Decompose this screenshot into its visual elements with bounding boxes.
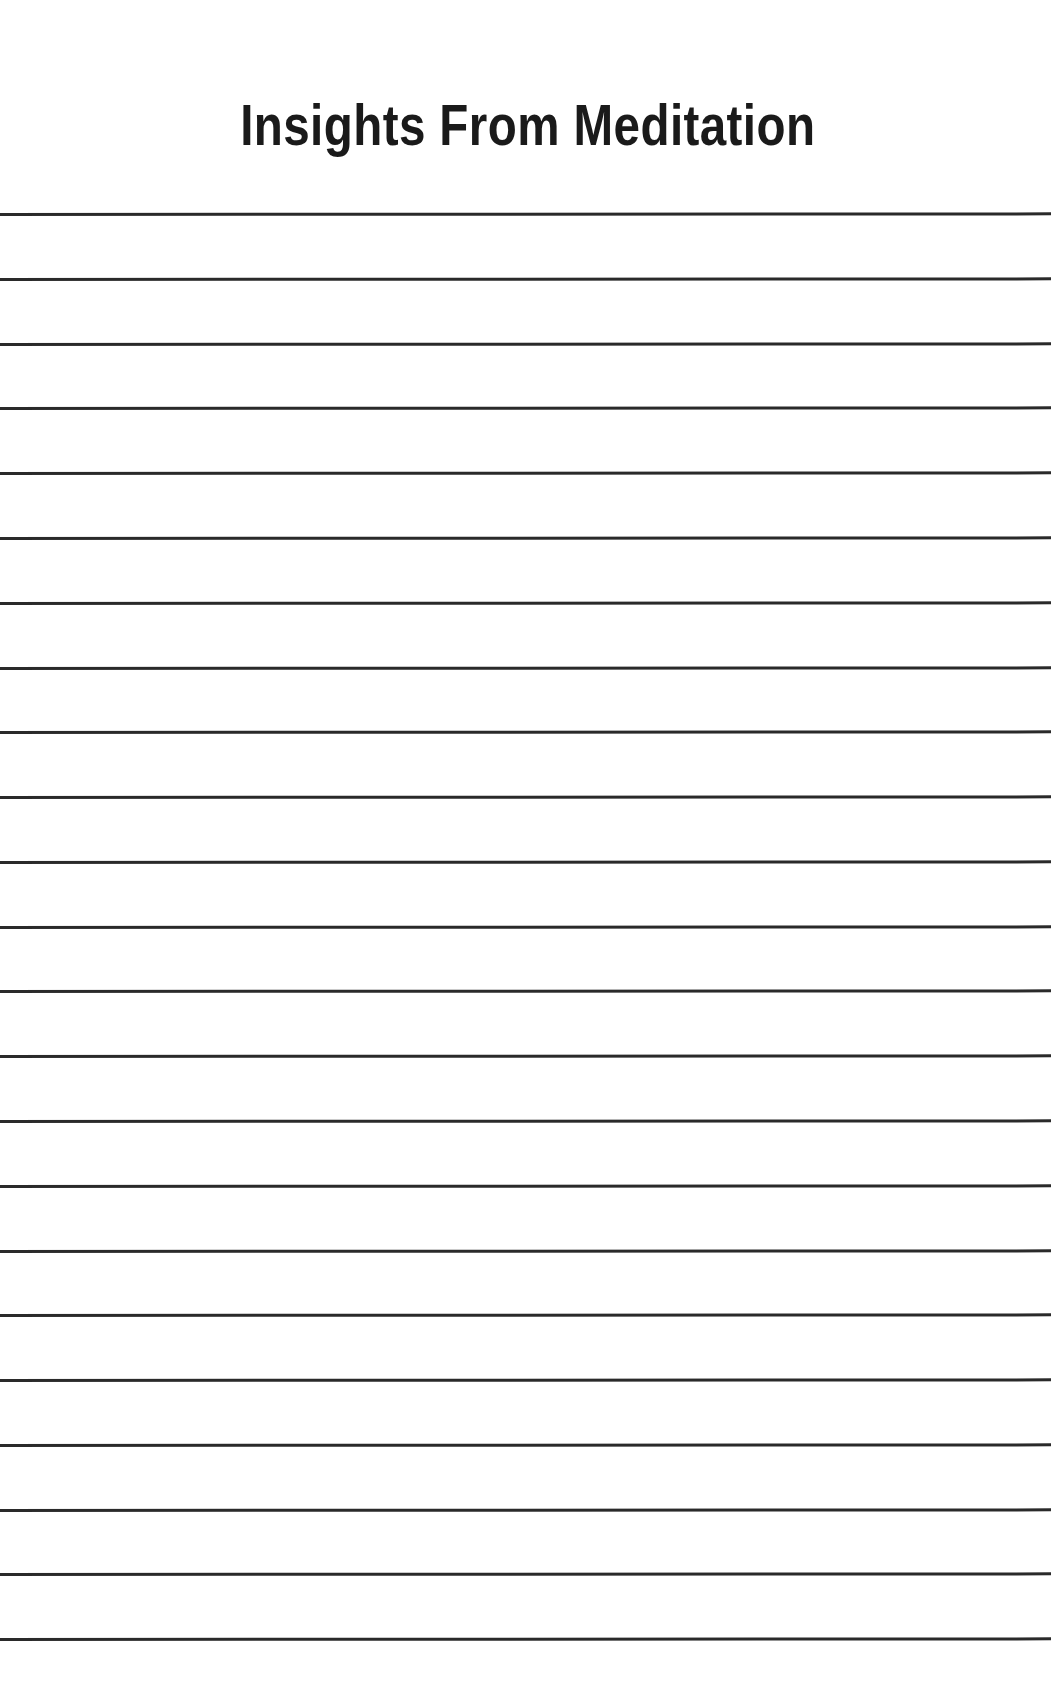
writing-line[interactable] <box>0 1184 1051 1188</box>
writing-line[interactable] <box>0 277 1051 281</box>
writing-line[interactable] <box>0 406 1051 410</box>
writing-line[interactable] <box>0 1572 1051 1576</box>
journal-page: Insights From Meditation <box>0 0 1055 1698</box>
writing-line[interactable] <box>0 536 1051 540</box>
writing-line[interactable] <box>0 212 1051 216</box>
writing-line[interactable] <box>0 1313 1051 1317</box>
writing-line[interactable] <box>0 1443 1051 1447</box>
ruled-lines-area <box>0 0 1055 1698</box>
writing-line[interactable] <box>0 471 1051 475</box>
writing-line[interactable] <box>0 1508 1051 1512</box>
writing-line[interactable] <box>0 925 1051 929</box>
writing-line[interactable] <box>0 989 1051 993</box>
writing-line[interactable] <box>0 1119 1051 1123</box>
writing-line[interactable] <box>0 601 1051 605</box>
writing-line[interactable] <box>0 730 1051 734</box>
writing-line[interactable] <box>0 1249 1051 1253</box>
writing-line[interactable] <box>0 795 1051 799</box>
writing-line[interactable] <box>0 1378 1051 1382</box>
writing-line[interactable] <box>0 1054 1051 1058</box>
writing-line[interactable] <box>0 860 1051 864</box>
writing-line[interactable] <box>0 666 1051 670</box>
writing-line[interactable] <box>0 1637 1051 1641</box>
writing-line[interactable] <box>0 342 1051 346</box>
